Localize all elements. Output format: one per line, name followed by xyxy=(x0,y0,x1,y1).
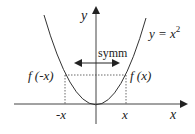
left-value-label: f (-x) xyxy=(28,68,54,83)
curve-label: y = x2 xyxy=(147,24,180,41)
left-tick-label: -x xyxy=(56,107,66,122)
right-value-label: f (x) xyxy=(130,68,151,83)
symmetry-label: symm xyxy=(98,46,128,60)
parabola-curve xyxy=(44,15,146,105)
right-tick-label: x xyxy=(121,107,128,122)
y-axis-label: y xyxy=(79,8,88,23)
even-function-diagram: y y = x2 symm f (-x) f (x) -x x x xyxy=(0,0,195,134)
x-axis-label: x xyxy=(169,107,177,122)
